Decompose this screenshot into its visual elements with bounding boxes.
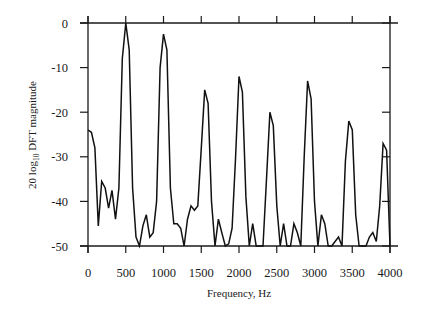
y-tick-label: 0 [62, 17, 68, 31]
y-tick-label: -10 [51, 61, 68, 75]
dft-magnitude-chart: 05001000150020002500300035004000 0-10-20… [0, 0, 422, 315]
x-tick-label: 500 [116, 266, 135, 280]
y-tick-label: -20 [51, 106, 68, 120]
y-axis-title-prefix: 20 log [26, 161, 38, 189]
x-tick-label: 2000 [227, 266, 252, 280]
x-tick-label: 3500 [340, 266, 365, 280]
x-tick-label: 2500 [264, 266, 289, 280]
y-axis-title-suffix: DFT magnitude [26, 81, 38, 154]
x-tick-label: 0 [85, 266, 91, 280]
x-tick-label: 3000 [302, 266, 327, 280]
plot-frame [80, 16, 398, 253]
y-tick-labels: 0-10-20-30-40-50 [51, 17, 68, 254]
x-ticks [88, 16, 390, 253]
dft-magnitude-line [88, 23, 390, 246]
y-axis-title: 20 log10 DFT magnitude [26, 81, 41, 189]
y-tick-label: -50 [51, 240, 68, 254]
x-tick-label: 4000 [378, 266, 403, 280]
x-tick-labels: 05001000150020002500300035004000 [85, 266, 403, 280]
x-tick-label: 1500 [189, 266, 214, 280]
x-tick-label: 1000 [151, 266, 176, 280]
y-tick-label: -30 [51, 150, 68, 164]
y-tick-label: -40 [51, 195, 68, 209]
x-axis-title: Frequency, Hz [207, 287, 271, 299]
